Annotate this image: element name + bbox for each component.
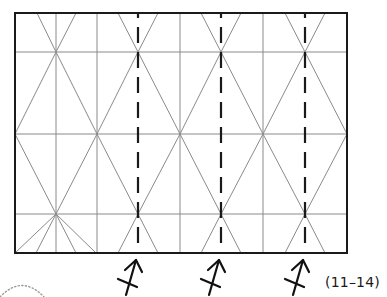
diagonal-creases xyxy=(15,13,347,253)
vertical-creases xyxy=(56,13,263,253)
valley-fold-lines xyxy=(138,13,305,253)
fold-arrow-icon xyxy=(118,260,142,295)
fold-arrow-icon xyxy=(285,260,309,295)
fold-arrow-icon xyxy=(201,260,225,295)
crease-pattern-diagram xyxy=(0,0,387,297)
step-label: (11–14) xyxy=(325,274,380,290)
dotted-arc xyxy=(0,286,44,297)
